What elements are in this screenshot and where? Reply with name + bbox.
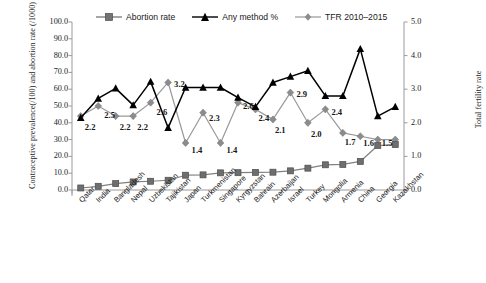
tfr-data-label: 1.4: [227, 145, 238, 155]
tfr-data-label: 2.4: [259, 113, 270, 123]
tfr-data-label: 2.2: [137, 122, 148, 132]
y-axis-right-tick-label: 2.0: [411, 118, 441, 127]
y-axis-left-tick-label: 80.0: [22, 51, 68, 60]
tfr-data-label: 2.0: [311, 129, 322, 139]
y-axis-left-tick-label: 60.0: [22, 84, 68, 93]
tfr-data-label: 1.6: [363, 138, 374, 148]
chart-text-overlay: 0.010.020.030.040.050.060.070.080.090.01…: [0, 0, 486, 283]
chart-container: Contraceptive prevalence(/100) and abort…: [0, 0, 486, 283]
tfr-data-label: 1.5: [382, 138, 393, 148]
y-axis-left-tick-label: 30.0: [22, 135, 68, 144]
y-axis-right-tick-label: 3.0: [411, 84, 441, 93]
y-axis-left-tick-label: 100.0: [22, 17, 68, 26]
tfr-data-label: 2.4: [331, 107, 342, 117]
y-axis-right-tick-label: 4.0: [411, 51, 441, 60]
y-axis-right-tick-label: 1.0: [411, 151, 441, 160]
y-axis-right-tick-label: 0.0: [411, 185, 441, 194]
x-axis-category-label: Qatar: [77, 185, 97, 205]
tfr-data-label: 2.2: [120, 122, 131, 132]
y-axis-left-tick-label: 40.0: [22, 118, 68, 127]
y-axis-left-tick-label: 70.0: [22, 67, 68, 76]
tfr-data-label: 2.2: [85, 122, 96, 132]
tfr-data-label: 3.2: [174, 79, 185, 89]
tfr-data-label: 2.1: [275, 125, 286, 135]
tfr-data-label: 2.6: [157, 107, 168, 117]
tfr-data-label: 1.7: [345, 137, 356, 147]
y-axis-left-tick-label: 90.0: [22, 34, 68, 43]
tfr-data-label: 2.6: [243, 101, 254, 111]
x-axis-category-label: India: [94, 186, 112, 204]
y-axis-left-tick-label: 0.0: [22, 185, 68, 194]
y-axis-left-tick-label: 50.0: [22, 101, 68, 110]
y-axis-right-tick-label: 5.0: [411, 17, 441, 26]
tfr-data-label: 2.9: [296, 89, 307, 99]
tfr-data-label: 2.3: [209, 113, 220, 123]
y-axis-left-tick-label: 20.0: [22, 151, 68, 160]
y-axis-left-tick-label: 10.0: [22, 168, 68, 177]
tfr-data-label: 2.5: [104, 110, 115, 120]
tfr-data-label: 1.4: [192, 145, 203, 155]
